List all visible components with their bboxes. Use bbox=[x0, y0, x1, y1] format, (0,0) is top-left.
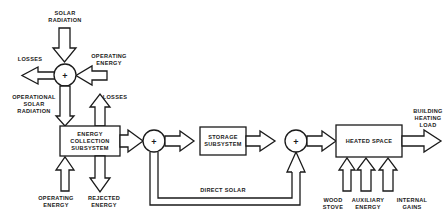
svg-text:SOLAR: SOLAR bbox=[23, 101, 44, 107]
arrow-collection-to-junction bbox=[120, 130, 143, 152]
arrow-operating-energy-bottom-in bbox=[56, 157, 74, 191]
label-losses-collection: LOSSES bbox=[103, 94, 128, 100]
svg-text:RADIATION: RADIATION bbox=[17, 108, 50, 114]
label-direct-solar: DIRECT SOLAR bbox=[200, 187, 246, 193]
arrow-auxiliary-energy-in bbox=[357, 158, 375, 191]
arrow-losses-top-out bbox=[22, 67, 55, 84]
svg-text:ENERGY: ENERGY bbox=[91, 202, 116, 208]
svg-text:ENERGY: ENERGY bbox=[43, 202, 68, 208]
svg-text:COLLECTION: COLLECTION bbox=[70, 138, 109, 144]
label-losses-top: LOSSES bbox=[18, 56, 43, 62]
svg-text:ENERGY: ENERGY bbox=[355, 204, 380, 210]
svg-text:RADIATION: RADIATION bbox=[48, 17, 81, 23]
label-building-heating-load: BUILDING HEATING LOAD bbox=[413, 108, 442, 128]
arrow-operational-solar-radiation bbox=[56, 86, 74, 126]
svg-text:OPERATING: OPERATING bbox=[91, 53, 127, 59]
arrow-solar-radiation-in bbox=[53, 28, 76, 62]
svg-text:GAINS: GAINS bbox=[402, 204, 421, 210]
label-internal-gains: INTERNAL GAINS bbox=[397, 197, 428, 210]
energy-collection-subsystem: ENERGY COLLECTION SUBSYSTEM bbox=[60, 126, 120, 156]
svg-text:SUBSYSTEM: SUBSYSTEM bbox=[204, 141, 242, 147]
svg-text:WOOD: WOOD bbox=[323, 197, 342, 203]
svg-text:OPERATIONAL: OPERATIONAL bbox=[12, 94, 56, 100]
top-junction: + bbox=[54, 64, 76, 86]
arrow-building-heating-load-out bbox=[402, 130, 441, 152]
storage-subsystem: STORAGE SUBSYSTEM bbox=[200, 127, 246, 155]
heated-space: HEATED SPACE bbox=[336, 125, 402, 157]
svg-text:STORAGE: STORAGE bbox=[208, 134, 238, 140]
arrow-rejected-energy-out bbox=[90, 156, 110, 192]
svg-text:HEATING: HEATING bbox=[415, 115, 442, 121]
label-wood-stove: WOOD STOVE bbox=[323, 197, 343, 210]
svg-text:SUBSYSTEM: SUBSYSTEM bbox=[71, 145, 109, 151]
label-operating-energy-bottom: OPERATING ENERGY bbox=[38, 195, 74, 208]
svg-text:BUILDING: BUILDING bbox=[413, 108, 442, 114]
svg-text:REJECTED: REJECTED bbox=[88, 195, 120, 201]
svg-text:ENERGY: ENERGY bbox=[77, 131, 102, 137]
arrow-direct-solar-in bbox=[287, 152, 305, 172]
arrow-junction-to-storage bbox=[165, 131, 194, 151]
plus-icon: + bbox=[151, 137, 157, 147]
svg-text:HEATED SPACE: HEATED SPACE bbox=[346, 138, 393, 144]
label-auxiliary-energy: AUXILIARY ENERGY bbox=[352, 197, 385, 210]
arrow-wood-stove-in bbox=[339, 158, 355, 191]
plus-icon: + bbox=[293, 137, 299, 147]
svg-text:ENERGY: ENERGY bbox=[96, 60, 121, 66]
svg-text:INTERNAL: INTERNAL bbox=[397, 197, 428, 203]
junction-after-storage: + bbox=[285, 130, 307, 152]
svg-text:STOVE: STOVE bbox=[323, 204, 343, 210]
label-solar-radiation: SOLAR RADIATION bbox=[48, 10, 81, 23]
svg-text:SOLAR: SOLAR bbox=[54, 10, 75, 16]
direct-solar-path-outer bbox=[150, 152, 300, 205]
arrow-internal-gains-in bbox=[379, 158, 397, 191]
svg-text:OPERATING: OPERATING bbox=[38, 195, 74, 201]
label-operational-solar-radiation: OPERATIONAL SOLAR RADIATION bbox=[12, 94, 56, 114]
solar-heating-system-diagram: SOLAR RADIATION LOSSES OPERATING ENERGY … bbox=[0, 0, 448, 222]
label-rejected-energy: REJECTED ENERGY bbox=[88, 195, 120, 208]
junction-after-collection: + bbox=[143, 130, 165, 152]
label-operating-energy-top: OPERATING ENERGY bbox=[91, 53, 127, 66]
svg-text:AUXILIARY: AUXILIARY bbox=[352, 197, 385, 203]
arrow-storage-to-junction bbox=[246, 131, 275, 151]
plus-icon: + bbox=[62, 71, 68, 81]
arrow-operating-energy-top-in bbox=[76, 66, 107, 85]
arrow-junction-to-heated-space bbox=[307, 131, 336, 151]
svg-text:LOAD: LOAD bbox=[419, 122, 436, 128]
